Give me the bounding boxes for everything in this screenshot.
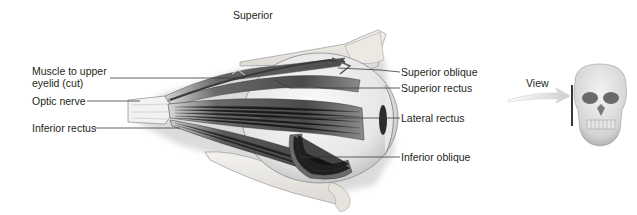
- label-muscle-to-upper-eyelid: Muscle to upper eyelid (cut): [32, 65, 112, 89]
- view-arrow-icon: [508, 88, 570, 103]
- label-lateral-rectus: Lateral rectus: [401, 112, 465, 124]
- eye-muscles-illustration: [0, 0, 637, 215]
- pupil-iris: [379, 105, 387, 135]
- skull-orientation-icon: [572, 64, 627, 146]
- label-optic-nerve: Optic nerve: [32, 95, 86, 107]
- label-superior-rectus: Superior rectus: [401, 82, 472, 94]
- label-inferior-rectus: Inferior rectus: [32, 122, 96, 134]
- label-inferior-oblique: Inferior oblique: [401, 151, 470, 163]
- view-label: View: [526, 77, 549, 89]
- orientation-label-superior: Superior: [233, 9, 273, 21]
- label-superior-oblique: Superior oblique: [401, 66, 477, 78]
